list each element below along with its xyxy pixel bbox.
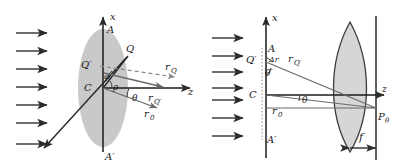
aperture-bottom-label-right: A′ xyxy=(266,134,277,145)
svg-text:Q: Q xyxy=(171,67,177,75)
aperture-bottom-label-left: A′ xyxy=(104,151,115,162)
angle-rho-label: ρ xyxy=(112,82,119,92)
center-label-left: C xyxy=(84,82,92,93)
point-q-prime-label-right: Q′ xyxy=(246,54,257,65)
optics-figure: x A A′ C Q Q′ φ ρ θ z r Q r Q′ r 0 xyxy=(0,0,402,168)
figure-canvas: x A A′ C Q Q′ φ ρ θ z r Q r Q′ r 0 xyxy=(0,0,402,168)
angle-theta-prime-label: θ′ xyxy=(265,68,272,78)
svg-text:0: 0 xyxy=(278,111,283,119)
point-q-label: Q xyxy=(126,43,134,54)
x-axis-label-left: x xyxy=(110,11,116,22)
angle-theta-label-left: θ xyxy=(132,93,138,103)
svg-text:Q′: Q′ xyxy=(294,59,302,67)
aperture-top-label-left: A xyxy=(106,24,114,35)
z-axis-label-left: z xyxy=(187,86,194,97)
x-axis-label-right: x xyxy=(272,12,278,23)
svg-text:Q′: Q′ xyxy=(154,98,162,106)
point-q-prime-label-left: Q′ xyxy=(81,59,92,70)
angle-phi-label: φ xyxy=(104,72,110,81)
delta-r-label: Δr xyxy=(268,55,280,64)
angle-theta-label-right: θ xyxy=(302,95,308,105)
svg-text:P: P xyxy=(377,111,385,122)
z-axis-label-right: z xyxy=(381,84,387,94)
svg-text:0: 0 xyxy=(150,114,155,122)
center-label-right: C xyxy=(249,89,257,100)
aperture-top-label-right: A xyxy=(267,43,275,54)
